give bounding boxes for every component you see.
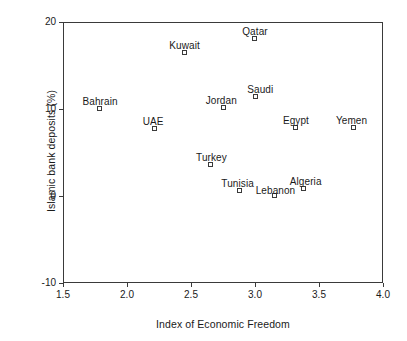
x-axis-tick-label: 1.5 xyxy=(43,289,83,300)
y-axis-tick xyxy=(59,196,63,197)
x-axis-tick-label: 2.5 xyxy=(171,289,211,300)
scatter-chart-figure: 1.52.02.53.03.54.020100-10 BahrainUAEKuw… xyxy=(0,0,407,341)
data-point-label: Bahrain xyxy=(83,96,118,107)
x-axis-tick xyxy=(255,283,256,287)
y-axis-tick xyxy=(59,22,63,23)
data-point-label: UAE xyxy=(143,116,164,127)
x-axis-tick xyxy=(383,283,384,287)
data-point-label: Saudi xyxy=(247,84,273,95)
y-axis-title: Islamic bank deposits (%) xyxy=(45,21,57,282)
x-axis-tick xyxy=(191,283,192,287)
data-point-label: Kuwait xyxy=(169,40,200,51)
x-axis-tick xyxy=(127,283,128,287)
data-point-label: Tunisia xyxy=(221,178,254,189)
x-axis-tick-label: 2.0 xyxy=(107,289,147,300)
data-point-label: Egypt xyxy=(283,115,309,126)
data-point-label: Qatar xyxy=(242,26,268,37)
data-point-label: Yemen xyxy=(336,115,367,126)
data-point-label: Jordan xyxy=(206,95,237,106)
x-axis-tick xyxy=(319,283,320,287)
x-axis-tick-label: 3.5 xyxy=(299,289,339,300)
y-axis-tick xyxy=(59,283,63,284)
x-axis-tick xyxy=(63,283,64,287)
data-point-label: Algeria xyxy=(290,176,322,187)
x-axis-tick-label: 4.0 xyxy=(363,289,403,300)
data-point-label: Turkey xyxy=(196,152,227,163)
y-axis-tick xyxy=(59,109,63,110)
x-axis-tick-label: 3.0 xyxy=(235,289,275,300)
x-axis-title: Index of Economic Freedom xyxy=(63,318,383,330)
